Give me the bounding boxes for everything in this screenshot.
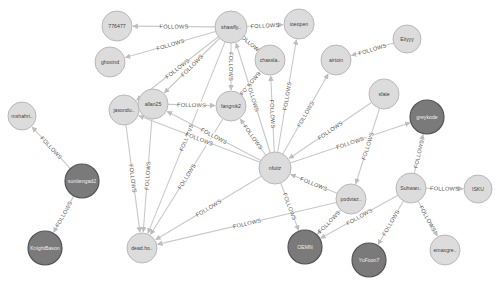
graph-node-suntiengad2[interactable]: suntiengad2: [65, 164, 99, 198]
node-label: emaxgre..: [433, 247, 456, 253]
relationship-edge[interactable]: FOLLOWS: [247, 21, 283, 29]
relationship-edge[interactable]: FOLLOWS: [168, 101, 215, 109]
relationship-edge[interactable]: FOLLOWS: [418, 201, 438, 236]
relationship-edge[interactable]: FOLLOWS: [289, 102, 372, 158]
graph-node-sfate[interactable]: sfate: [369, 79, 399, 109]
edge-label: FOLLOWS: [282, 192, 298, 221]
edge-label: FOLLOWS: [39, 135, 63, 160]
node-label: shawfly..: [221, 24, 241, 30]
node-label: airtoin: [329, 57, 343, 63]
relationship-edge[interactable]: FOLLOWS: [426, 185, 463, 193]
edge-label: FOLLOWS: [54, 200, 73, 228]
node-label: jasondu..: [112, 107, 134, 113]
edge-label: FOLLOWS: [296, 100, 315, 128]
graph-node-ioeopen[interactable]: ioeopen: [284, 9, 314, 39]
relationship-edge[interactable]: FOLLOWS: [378, 201, 403, 244]
relationship-edge[interactable]: FOLLOWS: [351, 42, 393, 57]
graph-node-emaxgre[interactable]: emaxgre..: [430, 235, 460, 265]
edge-label: FOLLOWS: [232, 217, 261, 229]
node-label: dead.ho..: [131, 245, 153, 251]
node-label: chassla..: [260, 57, 280, 63]
graph-node-eiiyyy[interactable]: Eiiyyy: [393, 25, 421, 53]
edge-label: FOLLOWS: [317, 120, 344, 141]
relationship-edge[interactable]: FOLLOWS: [156, 176, 262, 240]
edge-label: FOLLOWS: [156, 38, 185, 52]
relationship-edge[interactable]: FOLLOWS: [54, 196, 74, 232]
node-label: OEMN: [297, 244, 313, 250]
edge-label: FOLLOWS: [242, 124, 264, 151]
graph-node-chassla[interactable]: chassla..: [255, 45, 285, 75]
node-label: nfuitz: [269, 165, 282, 171]
node-label: YuFoon7: [359, 257, 380, 263]
edge-label: FOLLOWS: [160, 23, 189, 29]
relationship-edge[interactable]: FOLLOWS: [126, 125, 140, 232]
node-label: Suhwan..: [400, 185, 422, 191]
relationship-edge[interactable]: FOLLOWS: [281, 183, 299, 230]
node-label: 776477: [108, 23, 125, 29]
node-label: ghoxind: [101, 59, 119, 65]
relationship-edge[interactable]: FOLLOWS: [167, 111, 261, 160]
node-label: KnightBason: [30, 245, 60, 251]
edge-label: FOLLOWS: [177, 102, 206, 109]
node-label: allan25: [145, 101, 162, 107]
relationship-edge[interactable]: FOLLOWS: [125, 31, 215, 57]
relationship-edge[interactable]: FOLLOWS: [268, 76, 277, 152]
graph-node-airtoin[interactable]: airtoin: [321, 45, 351, 75]
relationship-edge[interactable]: FOLLOWS: [412, 135, 425, 174]
graph-node-isku[interactable]: ISKU: [464, 175, 492, 203]
relationship-edge[interactable]: FOLLOWS: [356, 108, 380, 183]
edge-label: FOLLOWS: [413, 139, 425, 168]
edge-label: FOLLOWS: [317, 209, 341, 234]
node-label: sfate: [378, 91, 389, 97]
edge-label: FOLLOWS: [282, 81, 293, 110]
graph-node-n776477[interactable]: 776477: [102, 11, 132, 41]
graph-node-yufoon7[interactable]: YuFoon7: [352, 243, 386, 277]
edge-label: FOLLOWS: [250, 22, 279, 29]
node-label: suntiengad2: [68, 178, 96, 184]
relationship-edge[interactable]: FOLLOWS: [133, 23, 215, 30]
edge-label: FOLLOWS: [228, 52, 234, 81]
edge-label: FOLLOWS: [177, 163, 197, 191]
graph-node-shawfly[interactable]: shawfly..: [215, 11, 247, 43]
edge-label: FOLLOWS: [299, 176, 328, 192]
edge-label: FOLLOWS: [195, 198, 223, 218]
graph-node-jasondu[interactable]: jasondu..: [109, 95, 139, 125]
graph-node-nfuitz[interactable]: nfuitz: [259, 152, 291, 184]
graph-node-knightbason[interactable]: KnightBason: [28, 231, 62, 265]
relationship-edge[interactable]: FOLLOWS: [291, 174, 337, 193]
graph-node-allan25[interactable]: allan25: [138, 89, 168, 119]
graph-node-greykode[interactable]: greykode: [410, 100, 444, 134]
graph-node-fangmk2[interactable]: fangmk2: [216, 91, 246, 121]
node-label: ISKU: [472, 186, 484, 192]
edge-label: FOLLOWS: [418, 205, 437, 233]
edge-label: FOLLOWS: [143, 161, 151, 190]
graph-node-podviaz[interactable]: podviaz..: [336, 184, 366, 214]
node-label: podviaz..: [341, 196, 362, 202]
relationship-edge[interactable]: FOLLOWS: [32, 127, 70, 168]
graph-canvas[interactable]: FOLLOWSFOLLOWSFOLLOWSFOLLOWSFOLLOWSFOLLO…: [0, 0, 503, 281]
node-label: fangmk2: [221, 103, 241, 109]
edge-label: FOLLOWS: [381, 209, 401, 237]
relationship-edge[interactable]: FOLLOWS: [290, 123, 410, 163]
graph-node-ghoxind[interactable]: ghoxind: [95, 47, 125, 77]
graph-node-oemn[interactable]: OEMN: [288, 230, 322, 264]
node-label: ioeopen: [290, 21, 309, 27]
graph-node-deadho[interactable]: dead.ho..: [127, 233, 157, 263]
graph-node-suhwan[interactable]: Suhwan..: [396, 173, 426, 203]
node-label: mshahri..: [11, 113, 32, 119]
node-label: greykode: [416, 114, 437, 120]
relationship-edge[interactable]: FOLLOWS: [227, 43, 234, 90]
relationship-edge[interactable]: FOLLOWS: [316, 209, 341, 235]
relationship-edge[interactable]: FOLLOWS: [143, 119, 152, 232]
edge-label: FOLLOWS: [358, 42, 387, 56]
edge-label: FOLLOWS: [430, 185, 459, 191]
node-label: Eiiyyy: [400, 36, 414, 42]
graph-node-mshahri[interactable]: mshahri..: [8, 102, 36, 130]
